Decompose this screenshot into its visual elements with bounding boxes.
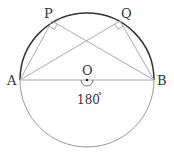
segment-qb [120, 21, 154, 80]
label-o: O [82, 63, 93, 78]
label-b: B [157, 73, 167, 88]
segment-aq [20, 21, 120, 80]
center-point-o [86, 79, 89, 82]
label-q: Q [121, 6, 132, 21]
lower-arc [20, 80, 154, 147]
label-a: A [6, 73, 17, 88]
segment-ap [20, 21, 52, 80]
segment-pb [52, 21, 154, 80]
semicircle-diagram: P Q A B O 180 ° [0, 0, 174, 162]
angle-label-180: 180 [77, 93, 100, 107]
label-p: P [44, 6, 53, 21]
degree-symbol: ° [98, 91, 102, 100]
